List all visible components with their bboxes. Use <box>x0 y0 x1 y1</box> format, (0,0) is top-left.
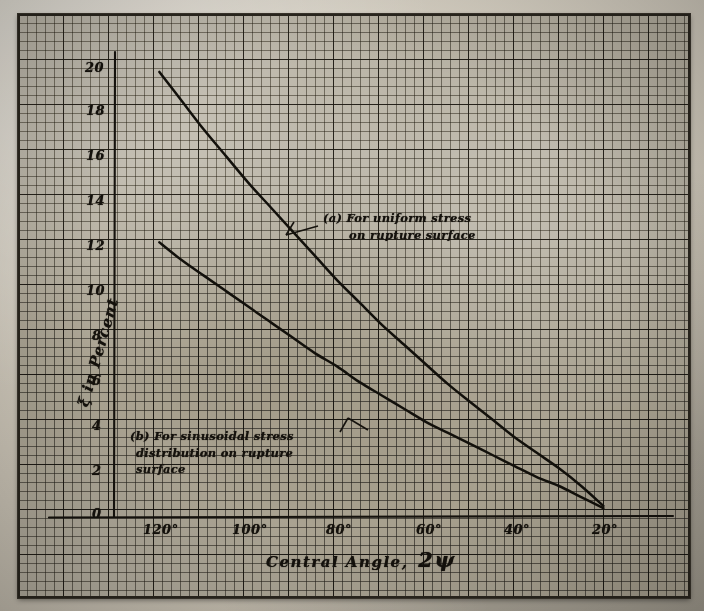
curve-b-sinusoidal-stress <box>159 242 603 508</box>
figure-photo: 20 18 16 14 12 10 8 6 4 2 0 ξ in Percent… <box>0 0 704 611</box>
x-axis-line <box>49 516 673 518</box>
y-axis-line <box>114 52 115 517</box>
leader-line-b <box>348 418 368 430</box>
plot-area <box>18 14 690 598</box>
graph-paper-sheet: 20 18 16 14 12 10 8 6 4 2 0 ξ in Percent… <box>18 14 690 598</box>
leader-line-b2 <box>340 418 348 432</box>
curve-a-uniform-stress <box>159 72 603 506</box>
